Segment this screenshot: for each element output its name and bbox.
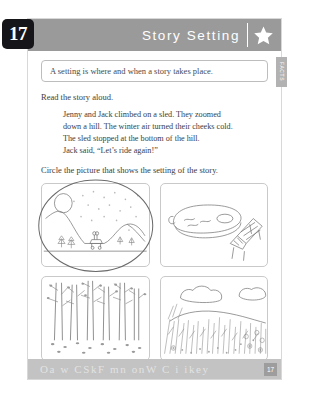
picture-choice-grid (41, 183, 268, 361)
definition-box: A setting is where and when a story take… (41, 60, 268, 82)
star-icon (253, 25, 274, 46)
snowy-hill-scene (41, 183, 150, 268)
story-line: The sled stopped at the bottom of the hi… (63, 133, 268, 145)
page-header: Story Setting (28, 19, 281, 51)
side-tab-label: FACTS (279, 62, 285, 81)
read-instruction: Read the story aloud. (41, 92, 268, 102)
section-side-tab: FACTS (276, 57, 287, 87)
story-passage: Jenny and Jack climbed on a sled. They z… (63, 109, 268, 157)
picture-option-swimming-pool[interactable] (160, 183, 269, 268)
story-line: Jack said, “Let’s ride again!” (63, 145, 268, 157)
circle-instruction: Circle the picture that shows the settin… (41, 165, 268, 175)
definition-text: A setting is where and when a story take… (50, 66, 213, 76)
page-footer: Oa w CSkF mn onW C i ikey 17 (28, 359, 281, 379)
header-divider (247, 23, 248, 47)
page-title: Story Setting (142, 28, 247, 43)
forest-scene (41, 276, 150, 361)
unit-number-tab: 17 (2, 19, 34, 49)
footer-page-number: 17 (264, 363, 277, 376)
worksheet-page: Story Setting FACTS A setting is where a… (27, 18, 282, 380)
picture-option-snowy-hill[interactable] (41, 183, 150, 268)
worksheet-content: A setting is where and when a story take… (28, 51, 281, 353)
story-line: Jenny and Jack climbed on a sled. They z… (63, 109, 268, 121)
picture-option-forest[interactable] (41, 276, 150, 361)
grassy-field-scene (160, 276, 269, 361)
unit-number-label: 17 (9, 23, 27, 45)
picture-option-grassy-field[interactable] (160, 276, 269, 361)
footer-decorative-letters: Oa w CSkF mn onW C i ikey (40, 363, 210, 375)
story-line: down a hill. The winter air turned their… (63, 121, 268, 133)
swimming-pool-scene (160, 183, 269, 268)
